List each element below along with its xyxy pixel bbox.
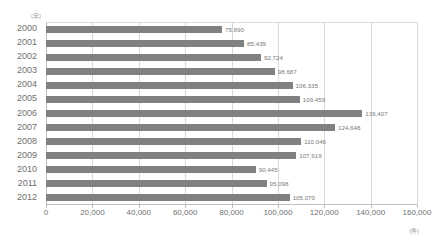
x-axis-tick-labels: 020,00040,00060,00080,000100,000120,0001…	[46, 208, 417, 224]
bar	[46, 54, 261, 61]
x-axis-unit-label: (件)	[409, 226, 419, 235]
bar-row: 105,070	[46, 192, 417, 204]
y-axis-category-label: 2008	[17, 136, 37, 146]
bar-row: 136,407	[46, 108, 417, 120]
bar-row: 124,648	[46, 122, 417, 134]
bar	[46, 152, 296, 159]
x-axis-tick-label: 40,000	[127, 208, 151, 217]
bar-value-label: 107,919	[299, 152, 321, 159]
x-axis-tick	[46, 205, 47, 208]
y-axis-unit-label: (年)	[31, 11, 41, 20]
bar-row: 110,046	[46, 136, 417, 148]
bar-rows: 75,89085,43992,72498,687106,335109,45913…	[46, 22, 417, 205]
y-axis-category-label: 2006	[17, 108, 37, 118]
plot-area: 75,89085,43992,72498,687106,335109,45913…	[46, 22, 417, 205]
x-axis-tick-label: 140,000	[356, 208, 385, 217]
y-axis-category-label: 2004	[17, 79, 37, 89]
bar-value-label: 95,098	[270, 180, 289, 187]
bar-row: 85,439	[46, 37, 417, 49]
bar-value-label: 136,407	[365, 110, 387, 117]
bar-value-label: 106,335	[296, 82, 318, 89]
bar-value-label: 124,648	[338, 124, 360, 131]
bar	[46, 40, 244, 47]
y-axis-category-label: 2007	[17, 122, 37, 132]
bar	[46, 138, 301, 145]
bar-value-label: 98,687	[278, 68, 297, 75]
x-axis-tick	[185, 205, 186, 208]
y-axis-category-label: 2005	[17, 93, 37, 103]
x-axis-tick	[232, 205, 233, 208]
x-axis-tick	[92, 205, 93, 208]
x-axis-tick-label: 100,000	[263, 208, 292, 217]
bar	[46, 110, 362, 117]
bar	[46, 166, 256, 173]
y-axis-category-label: 2003	[17, 65, 37, 75]
bar	[46, 68, 275, 75]
bar-row: 98,687	[46, 65, 417, 77]
bar-chart: (年) (件) 20002001200220032004200520062007…	[0, 0, 440, 246]
bar-row: 109,459	[46, 93, 417, 105]
bar-value-label: 105,070	[293, 194, 315, 201]
x-axis-tick	[324, 205, 325, 208]
x-axis-tick-label: 80,000	[219, 208, 243, 217]
bar-row: 90,445	[46, 164, 417, 176]
gridline	[417, 22, 418, 205]
bar-value-label: 90,445	[259, 166, 278, 173]
bar-row: 92,724	[46, 51, 417, 63]
bar	[46, 194, 290, 201]
y-axis-category-label: 2011	[18, 178, 37, 188]
bar-row: 95,098	[46, 178, 417, 190]
x-axis-tick-label: 120,000	[310, 208, 339, 217]
bar-value-label: 92,724	[264, 54, 283, 61]
x-axis-tick	[417, 205, 418, 208]
bar	[46, 124, 335, 131]
bar-row: 107,919	[46, 150, 417, 162]
y-axis-category-label: 2009	[17, 150, 37, 160]
bar	[46, 82, 293, 89]
bar-value-label: 85,439	[247, 40, 266, 47]
bar-value-label: 110,046	[304, 138, 326, 145]
x-axis-tick	[371, 205, 372, 208]
y-axis-category-label: 2010	[17, 164, 37, 174]
bar-row: 106,335	[46, 79, 417, 91]
x-axis-tick	[139, 205, 140, 208]
y-axis-category-labels: 2000200120022003200420052006200720082009…	[0, 22, 42, 205]
bar	[46, 180, 267, 187]
x-axis-tick-label: 0	[44, 208, 48, 217]
bar-row: 75,890	[46, 23, 417, 35]
x-axis-tick-label: 60,000	[173, 208, 197, 217]
y-axis-category-label: 2002	[17, 51, 37, 61]
bar-value-label: 109,459	[303, 96, 325, 103]
y-axis-category-label: 2000	[17, 23, 37, 33]
y-axis-category-label: 2012	[17, 192, 37, 202]
bar	[46, 96, 300, 103]
x-axis-tick-label: 160,000	[403, 208, 432, 217]
y-axis-category-label: 2001	[17, 37, 37, 47]
x-axis-tick	[278, 205, 279, 208]
x-axis-tick-label: 20,000	[80, 208, 104, 217]
bar	[46, 26, 222, 33]
bar-value-label: 75,890	[225, 26, 244, 33]
